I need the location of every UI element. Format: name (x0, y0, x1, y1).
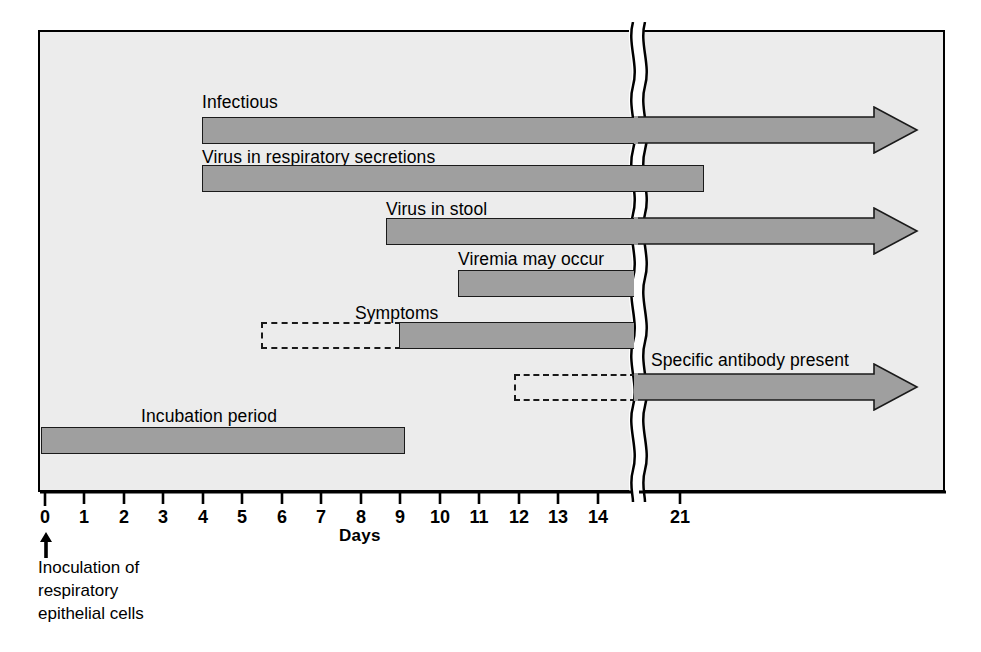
tick-label-0: 0 (40, 508, 50, 526)
tick-label-9: 9 (395, 508, 405, 526)
tick-label-5: 5 (237, 508, 247, 526)
tick-label-8: 8 (356, 508, 366, 526)
tick-label-7: 7 (316, 508, 326, 526)
timeline-figure: Infectious Virus in respiratory secretio… (0, 0, 981, 652)
tick-label-14: 14 (588, 508, 608, 526)
tick-label-13: 13 (548, 508, 568, 526)
tick-label-12: 12 (509, 508, 529, 526)
axis-title-days: Days (339, 526, 381, 546)
tick-label-4: 4 (198, 508, 208, 526)
plot-panel-right (638, 30, 945, 492)
tick-label-6: 6 (277, 508, 287, 526)
tick-label-21: 21 (670, 508, 690, 526)
tick-label-1: 1 (79, 508, 89, 526)
tick-label-10: 10 (430, 508, 450, 526)
tick-label-2: 2 (119, 508, 129, 526)
inoculation-up-arrow-icon (38, 532, 54, 558)
inoculation-note: Inoculation of respiratory epithelial ce… (38, 556, 144, 625)
tick-label-3: 3 (158, 508, 168, 526)
plot-panel-left (38, 30, 633, 492)
tick-label-11: 11 (469, 508, 488, 526)
